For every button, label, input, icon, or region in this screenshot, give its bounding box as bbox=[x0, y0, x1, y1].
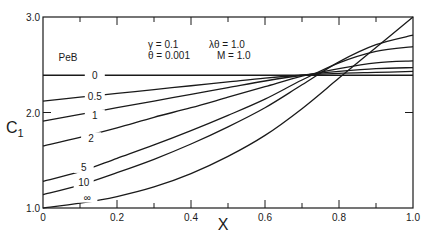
x-tick-label: 1.0 bbox=[406, 212, 420, 223]
x-axis-title: X bbox=[218, 216, 229, 233]
y-axis-title-main: C bbox=[6, 119, 18, 136]
legend-title: PeB bbox=[59, 52, 78, 63]
param-theta: θ = 0.001 bbox=[148, 50, 190, 61]
x-tick-label: 0.2 bbox=[110, 212, 124, 223]
param-m: M = 1.0 bbox=[217, 50, 251, 61]
param-gamma: γ = 0.1 bbox=[148, 39, 179, 50]
curve-label-inf: ∞ bbox=[84, 192, 91, 203]
curve-label-10: 10 bbox=[78, 177, 90, 188]
curve-label-5: 5 bbox=[81, 162, 87, 173]
y-tick-label: 2.0 bbox=[26, 108, 40, 119]
x-tick-label: 0.4 bbox=[184, 212, 198, 223]
x-tick-label: 0 bbox=[40, 212, 46, 223]
y-tick-label: 1.0 bbox=[26, 203, 40, 214]
curve-label-0.5: 0.5 bbox=[88, 91, 102, 102]
y-tick-label: 3.0 bbox=[26, 12, 40, 23]
x-tick-label: 0.8 bbox=[332, 212, 346, 223]
param-lambda-theta: λθ = 1.0 bbox=[209, 39, 245, 50]
curve-label-2: 2 bbox=[88, 133, 94, 144]
x-tick-label: 0.6 bbox=[258, 212, 272, 223]
chart-figure: 00.20.40.60.81.01.02.03.0 00.512510∞ X C… bbox=[0, 0, 427, 236]
y-axis-title: C1 bbox=[6, 119, 24, 139]
curve-label-0: 0 bbox=[92, 70, 98, 81]
curve-label-1: 1 bbox=[92, 110, 98, 121]
curve-labels: 00.512510∞ bbox=[74, 69, 105, 202]
y-axis-title-sub: 1 bbox=[18, 127, 24, 139]
